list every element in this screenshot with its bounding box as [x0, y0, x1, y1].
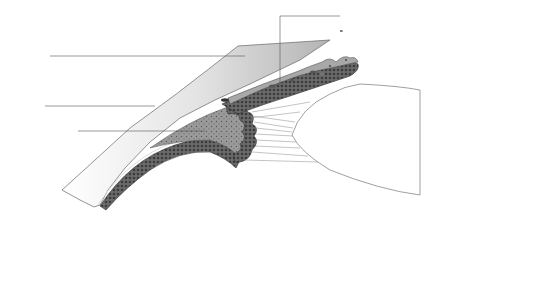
anatomy-illustration — [0, 0, 533, 283]
iris-ciliary-diagram — [0, 0, 533, 283]
lens-shape — [292, 84, 420, 195]
